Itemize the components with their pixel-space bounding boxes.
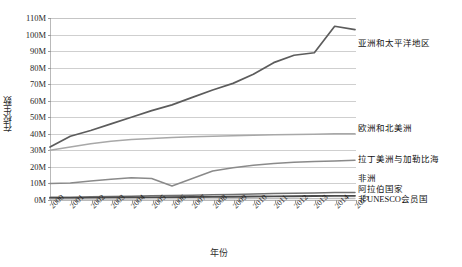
- series-label: 非洲: [358, 173, 376, 183]
- series-label: 阿拉伯国家: [358, 184, 403, 194]
- y-axis-tick-label: 70M: [2, 79, 46, 89]
- y-axis-tick-label: 80M: [2, 63, 46, 73]
- series-label: 欧洲和北美洲: [358, 123, 412, 133]
- y-axis-tick-label: 20M: [2, 162, 46, 172]
- series-line: [50, 26, 355, 147]
- series-label: 拉丁美洲与加勒比海: [358, 154, 439, 164]
- y-axis-tick-label: 30M: [2, 145, 46, 155]
- x-axis-tick-labels: 2000200120022003200420052006200720082009…: [50, 200, 370, 246]
- y-axis-tick-label: 0M: [2, 195, 46, 205]
- series-line: [50, 160, 355, 186]
- y-axis-tick-label: 110M: [2, 13, 46, 23]
- series-label: 非UNESCO会员国: [358, 194, 428, 204]
- series-lines: [50, 18, 355, 200]
- y-axis-tick-label: 10M: [2, 178, 46, 188]
- y-axis-tick-label: 50M: [2, 112, 46, 122]
- y-axis-tick-label: 60M: [2, 96, 46, 106]
- series-label: 亚洲和太平洋地区: [358, 38, 430, 48]
- series-line: [50, 134, 355, 151]
- chart-figure: 在校生数 0M10M20M30M40M50M60M70M80M90M100M11…: [0, 0, 462, 267]
- y-axis-tick-label: 100M: [2, 30, 46, 40]
- y-axis-tick-labels: 0M10M20M30M40M50M60M70M80M90M100M110M: [0, 0, 46, 267]
- y-axis-tick-label: 40M: [2, 129, 46, 139]
- x-axis-title: 年份: [210, 246, 228, 259]
- y-axis-tick-label: 90M: [2, 46, 46, 56]
